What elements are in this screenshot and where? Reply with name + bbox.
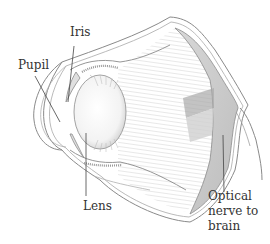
lens: [74, 75, 126, 149]
optic-nerve-label-line1: Optical: [208, 189, 252, 203]
lens-label: Lens: [83, 199, 112, 213]
optic-nerve: [236, 108, 262, 180]
pupil-label: Pupil: [18, 58, 49, 72]
optic-nerve-label-line2: nerve to: [208, 204, 258, 218]
iris-leader-line: [68, 46, 74, 102]
iris-label: Iris: [70, 25, 90, 39]
eye-diagram: Iris Pupil Lens Optical nerve to brain: [0, 0, 270, 244]
optic-nerve-label-line3: brain: [208, 219, 240, 233]
